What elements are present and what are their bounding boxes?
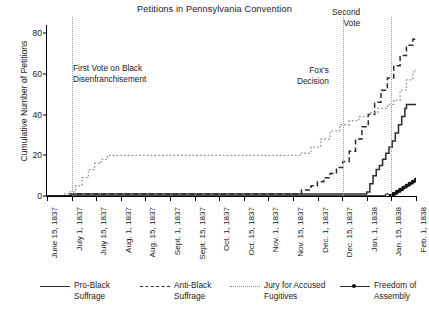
x-tick-label: Feb. 1, 1838 xyxy=(419,207,428,252)
y-tick-label: 80 xyxy=(32,28,42,38)
plot-area: 020406080 June 15, 1837July 1, 1837July … xyxy=(47,25,416,196)
legend-line-sample-icon xyxy=(40,286,70,289)
chart-figure: Petitions in Pennsylvania Convention Cum… xyxy=(0,0,429,321)
legend-line-sample-icon xyxy=(340,286,370,289)
annotation-label: Second Vote xyxy=(332,7,360,28)
annotation-vline xyxy=(391,17,392,196)
y-axis-line xyxy=(46,25,47,196)
x-tick-mark xyxy=(391,196,392,201)
annotation-label: First Vote on Black Disenfranchisement xyxy=(73,63,146,84)
x-tick-mark xyxy=(145,196,146,201)
x-tick-label: Nov. 1, 1837 xyxy=(271,207,280,252)
x-tick-mark xyxy=(47,196,48,201)
series-line xyxy=(47,70,416,196)
x-tick-label: Dec. 1, 1837 xyxy=(321,207,330,253)
x-tick-mark xyxy=(121,196,122,201)
chart-legend: Pro-Black SuffrageAnti-Black SuffrageJur… xyxy=(0,276,429,316)
x-tick-mark xyxy=(170,196,171,201)
y-tick-mark xyxy=(43,114,47,115)
y-tick-label: 20 xyxy=(32,150,42,160)
x-tick-mark xyxy=(268,196,269,201)
x-tick-label: July 15, 1837 xyxy=(99,207,108,255)
x-tick-label: Jan. 1, 1838 xyxy=(370,207,379,252)
x-tick-mark xyxy=(293,196,294,201)
chart-title: Petitions in Pennsylvania Convention xyxy=(0,4,429,14)
x-tick-label: June 15, 1837 xyxy=(50,207,59,258)
x-tick-mark xyxy=(244,196,245,201)
legend-label: Anti-Black Suffrage xyxy=(174,280,211,301)
x-tick-label: Aug. 1, 1837 xyxy=(124,207,133,253)
x-tick-label: Oct. 15, 1837 xyxy=(247,207,256,256)
x-tick-mark xyxy=(219,196,220,201)
x-tick-mark xyxy=(367,196,368,201)
y-tick-label: 40 xyxy=(32,110,42,120)
x-tick-mark xyxy=(416,196,417,201)
x-tick-mark xyxy=(318,196,319,201)
y-axis-label: Cumulative Number of Petitions xyxy=(19,11,29,191)
legend-label: Pro-Black Suffrage xyxy=(74,280,110,301)
x-tick-mark xyxy=(342,196,343,201)
x-tick-label: Sept. 1, 1837 xyxy=(173,207,182,255)
annotation-vline xyxy=(343,17,344,196)
legend-label: Jury for Accused Fugitives xyxy=(264,280,325,301)
y-tick-mark xyxy=(43,155,47,156)
x-tick-label: July 1, 1837 xyxy=(75,207,84,251)
series-plot xyxy=(47,25,416,196)
legend-line-sample-icon xyxy=(140,286,170,289)
y-tick-mark xyxy=(43,33,47,34)
x-tick-label: Dec. 15, 1837 xyxy=(345,207,354,257)
x-axis-line xyxy=(46,196,416,197)
x-tick-label: Sept. 15, 1837 xyxy=(198,207,207,260)
x-tick-mark xyxy=(72,196,73,201)
x-tick-label: Oct. 1, 1837 xyxy=(222,207,231,251)
y-tick-label: 60 xyxy=(32,69,42,79)
annotation-label: Fox's Decision xyxy=(297,65,329,86)
series-line xyxy=(47,104,416,196)
y-tick-label: 0 xyxy=(37,191,42,201)
annotation-vline xyxy=(72,17,73,196)
y-tick-mark xyxy=(43,73,47,74)
legend-label: Freedom of Assembly xyxy=(374,280,416,301)
x-tick-label: Jan. 15, 1838 xyxy=(394,207,403,256)
legend-line-sample-icon xyxy=(230,286,260,289)
x-tick-mark xyxy=(195,196,196,201)
x-tick-label: Nov. 15, 1837 xyxy=(296,207,305,257)
x-tick-label: Aug. 15, 1837 xyxy=(148,207,157,257)
x-tick-mark xyxy=(96,196,97,201)
